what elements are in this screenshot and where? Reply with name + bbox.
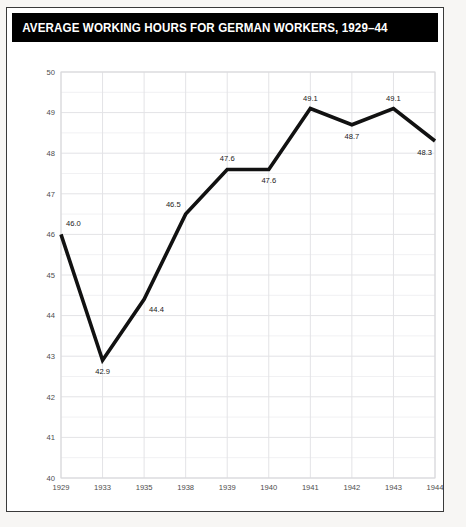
chart-title: AVERAGE WORKING HOURS FOR GERMAN WORKERS… [12, 21, 388, 35]
data-point-label: 46.5 [166, 200, 181, 209]
data-point-label: 48.3 [417, 148, 432, 157]
x-axis-ticks: 1929193319351938193919401941194219431944 [53, 483, 443, 492]
y-axis-tick-label: 49 [47, 108, 55, 117]
y-axis-tick-label: 46 [47, 230, 55, 239]
x-axis-tick-label: 1942 [343, 483, 360, 492]
y-axis-tick-label: 48 [47, 149, 55, 158]
y-axis-tick-label: 44 [47, 311, 55, 320]
x-axis-tick-label: 1944 [427, 483, 443, 492]
chart-title-bar: AVERAGE WORKING HOURS FOR GERMAN WORKERS… [12, 13, 438, 42]
x-axis-tick-label: 1935 [136, 483, 153, 492]
data-point-label: 48.7 [344, 132, 359, 141]
x-axis-tick-label: 1933 [94, 483, 111, 492]
y-axis-tick-label: 41 [47, 433, 55, 442]
y-axis-tick-label: 50 [47, 68, 55, 77]
x-axis-tick-label: 1943 [385, 483, 402, 492]
x-axis-tick-label: 1940 [260, 483, 277, 492]
data-point-label: 49.1 [303, 94, 318, 103]
x-axis-tick-label: 1939 [219, 483, 236, 492]
data-point-label: 46.0 [66, 219, 81, 228]
data-point-label: 47.6 [261, 176, 276, 185]
plot-area: 4041424344454647484950 19291933193519381… [7, 46, 443, 511]
y-axis-tick-label: 40 [47, 474, 55, 483]
data-point-label: 44.4 [149, 305, 164, 314]
y-axis-tick-label: 45 [47, 271, 55, 280]
x-axis-tick-label: 1938 [177, 483, 194, 492]
data-point-label: 49.1 [386, 94, 401, 103]
data-point-label: 42.9 [95, 367, 110, 376]
data-point-label: 47.6 [220, 154, 235, 163]
figure-panel: AVERAGE WORKING HOURS FOR GERMAN WORKERS… [6, 7, 444, 512]
y-axis-ticks: 4041424344454647484950 [47, 68, 55, 483]
y-axis-tick-label: 43 [47, 352, 55, 361]
x-axis-tick-label: 1929 [53, 483, 70, 492]
x-axis-tick-label: 1941 [302, 483, 319, 492]
y-axis-tick-label: 42 [47, 393, 55, 402]
line-chart: 4041424344454647484950 19291933193519381… [7, 46, 443, 511]
y-axis-tick-label: 47 [47, 190, 55, 199]
